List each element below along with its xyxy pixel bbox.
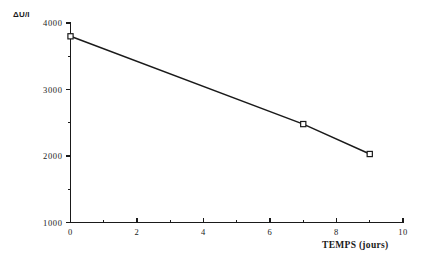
y-tick-label: 3000	[43, 85, 62, 95]
data-point-marker	[301, 121, 306, 126]
data-series	[68, 34, 372, 157]
y-axis-tick-labels: 1000200030004000	[43, 18, 62, 228]
plot-area: 1000200030004000 0246810	[0, 0, 424, 270]
x-axis: 0246810	[68, 218, 408, 237]
data-point-marker	[367, 151, 372, 156]
data-point-marker	[68, 34, 73, 39]
y-tick-label: 2000	[43, 151, 62, 161]
x-tick-label: 10	[398, 227, 408, 237]
x-tick-label: 0	[68, 227, 73, 237]
x-tick-label: 2	[135, 227, 140, 237]
chart-figure: ΔU/I TEMPS (jours) 1000200030004000 0246…	[0, 0, 424, 270]
x-tick-label: 4	[201, 227, 206, 237]
y-tick-label: 4000	[43, 18, 62, 28]
x-tick-label: 6	[268, 227, 273, 237]
y-tick-label: 1000	[43, 218, 62, 228]
x-axis-tick-labels: 0246810	[68, 227, 408, 237]
y-axis: 1000200030004000	[43, 18, 70, 228]
x-tick-label: 8	[334, 227, 339, 237]
series-line	[71, 36, 370, 154]
